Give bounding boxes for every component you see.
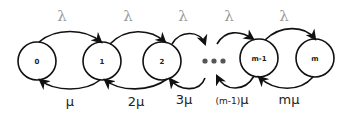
arrow-m-to-m-minus-1 xyxy=(259,77,313,88)
lambda-label-3: λ xyxy=(224,7,234,25)
arrow-1-to-0 xyxy=(40,80,100,89)
lambda-label-4: λ xyxy=(279,7,289,25)
state-m-minus-1-label: m-1 xyxy=(251,55,266,63)
arrow-dots-to-2 xyxy=(170,78,205,89)
state-0: 0 xyxy=(18,42,56,80)
lambda-label-2: λ xyxy=(178,7,188,25)
mu-label-3: 3μ xyxy=(176,92,193,107)
mu-label-2: 2μ xyxy=(128,94,145,109)
arrow-m-minus-1-to-m xyxy=(265,29,315,40)
state-1: 1 xyxy=(83,42,121,80)
mu-label-1: μ xyxy=(66,94,74,109)
state-2-label: 2 xyxy=(160,58,165,66)
lambda-label-1: λ xyxy=(123,7,133,25)
arrow-2-to-dots xyxy=(172,34,205,45)
ellipsis-dots xyxy=(202,58,225,63)
arrow-2-to-1 xyxy=(105,79,167,89)
state-1-label: 1 xyxy=(100,58,105,66)
state-m-label: m xyxy=(311,55,318,63)
arrow-0-to-1 xyxy=(39,32,101,43)
state-m-minus-1: m-1 xyxy=(240,39,278,77)
state-0-label: 0 xyxy=(35,58,40,66)
mu-label-m-minus-1: (m-1)μ xyxy=(215,92,248,107)
mu-label-m: mμ xyxy=(279,92,300,107)
state-m: m xyxy=(296,39,334,77)
arrow-m-minus-1-to-dots xyxy=(217,76,254,88)
lambda-label-0: λ xyxy=(57,7,67,25)
diagram-canvas: 0 1 2 m-1 m λ λ λ λ λ μ 2μ 3μ (m-1)μ mμ xyxy=(0,0,354,115)
state-2: 2 xyxy=(143,42,181,80)
markov-chain-diagram: 0 1 2 m-1 m λ λ λ λ λ μ 2μ 3μ (m-1)μ mμ xyxy=(0,0,354,115)
